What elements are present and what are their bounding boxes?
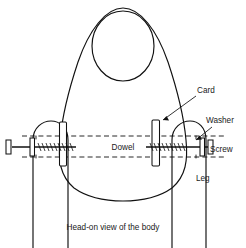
label-screw: Screw <box>210 145 233 154</box>
label-leg: Leg <box>196 174 210 183</box>
washer-right <box>200 138 205 156</box>
body-outline <box>59 8 186 201</box>
diagram-container: Card Washer Screw Leg Dowel Head-on view… <box>0 0 246 248</box>
head-on-body-diagram: Card Washer Screw Leg Dowel Head-on view… <box>0 0 246 248</box>
screw-head-left <box>6 140 11 154</box>
head-outline <box>92 11 154 81</box>
card-left <box>60 122 67 166</box>
label-washer: Washer <box>206 116 234 125</box>
washer-left <box>30 138 35 156</box>
label-card: Card <box>197 86 215 95</box>
label-dowel: Dowel <box>112 143 135 152</box>
diagram-caption: Head-on view of the body <box>67 223 161 232</box>
